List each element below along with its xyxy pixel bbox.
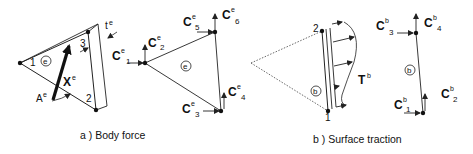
force-c1-sup: e xyxy=(121,47,125,54)
traction-sup: b xyxy=(367,72,371,79)
boundary-label: b xyxy=(407,66,412,75)
force-c4-sup: e xyxy=(237,83,241,90)
body-force-label: X xyxy=(63,75,71,89)
force-c2-sub: 2 xyxy=(160,43,165,52)
force-cb1-sup: b xyxy=(403,96,407,103)
element-label: e xyxy=(43,57,48,66)
force-cb4-sub: 4 xyxy=(437,24,442,33)
caption-a: a ) Body force xyxy=(80,129,146,141)
force-c3: C xyxy=(182,102,191,116)
force-c2-sup: e xyxy=(157,34,161,41)
force-cb3-sup: b xyxy=(385,17,389,24)
force-cb2-sup: b xyxy=(450,85,454,92)
force-c1-sub: 1 xyxy=(126,57,131,66)
force-cb3-sub: 3 xyxy=(389,28,394,37)
node-label: 2 xyxy=(313,23,319,34)
force-c2: C xyxy=(148,36,157,50)
force-c1: C xyxy=(112,49,121,63)
force-c5-sub: 5 xyxy=(195,23,200,32)
thickness-label: t xyxy=(105,20,108,31)
force-c3-sup: e xyxy=(191,100,195,107)
force-c4: C xyxy=(228,85,237,99)
node-label: 1 xyxy=(325,112,331,123)
force-c6-sup: e xyxy=(231,6,235,13)
panel-b-traction-element xyxy=(251,22,356,113)
force-c6: C xyxy=(222,8,231,22)
caption-b: b ) Surface traction xyxy=(313,133,402,145)
node-dot xyxy=(94,108,98,112)
node-dot xyxy=(18,61,22,65)
node-label: 2 xyxy=(86,93,92,104)
node-label: 1 xyxy=(30,57,36,68)
force-cb2: C xyxy=(441,87,450,101)
node-dot xyxy=(86,30,90,34)
panel-a-solid-element xyxy=(18,24,117,112)
force-c3-sub: 3 xyxy=(195,110,200,119)
element-label: e xyxy=(183,62,188,71)
force-c4-sub: 4 xyxy=(241,93,246,102)
node-label: 3 xyxy=(80,38,86,49)
force-c5-sup: e xyxy=(192,13,196,20)
panel-a-nodal-forces xyxy=(127,14,224,113)
thickness-sup: e xyxy=(109,19,113,26)
fem-load-diagram: 1 2 3 e X e A e t e e C e 1 C e 2 C e 3 … xyxy=(0,0,473,154)
force-c6-sub: 6 xyxy=(235,17,240,26)
area-sup: e xyxy=(43,91,47,98)
force-cb1: C xyxy=(394,98,403,112)
area-label: A xyxy=(36,93,43,104)
force-cb3: C xyxy=(376,19,385,33)
force-cb1-sub: 1 xyxy=(406,105,411,114)
force-cb4: C xyxy=(424,16,433,30)
boundary-label: b xyxy=(313,87,318,96)
body-force-sup: e xyxy=(72,74,76,81)
force-cb2-sub: 2 xyxy=(453,95,458,104)
force-c5: C xyxy=(183,15,192,29)
traction-label: T xyxy=(358,73,366,87)
force-cb4-sup: b xyxy=(433,14,437,21)
